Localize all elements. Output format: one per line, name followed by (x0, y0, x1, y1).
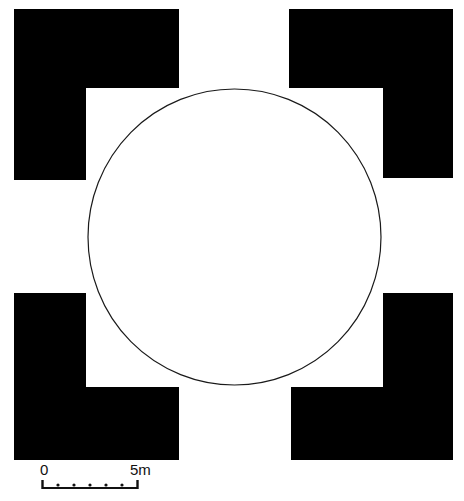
scale-bar: 0 5m (30, 456, 170, 500)
scale-tick-dot (104, 483, 107, 486)
scale-label-end: 5m (130, 462, 151, 477)
scale-tick-dot (56, 483, 59, 486)
plan-svg (0, 0, 464, 470)
scale-tick-dot (88, 483, 91, 486)
scale-label-start: 0 (40, 462, 48, 477)
plan-drawing-area (0, 0, 464, 470)
scale-tick-dot (72, 483, 75, 486)
scale-tick-dot (120, 483, 123, 486)
west-entrance-gap (14, 180, 86, 293)
north-entrance-gap (179, 9, 289, 88)
site-plan-figure: 0 5m (0, 0, 464, 501)
east-entrance-gap (383, 178, 453, 293)
south-entrance-gap (179, 387, 291, 460)
